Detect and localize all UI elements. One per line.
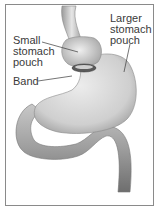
label-small-stomach-pouch: Small stomach pouch xyxy=(13,35,55,68)
leader-band xyxy=(38,76,72,81)
label-band: Band xyxy=(13,76,39,87)
small-stomach-pouch xyxy=(62,37,102,67)
label-larger-stomach-pouch: Larger stomach pouch xyxy=(110,13,152,46)
